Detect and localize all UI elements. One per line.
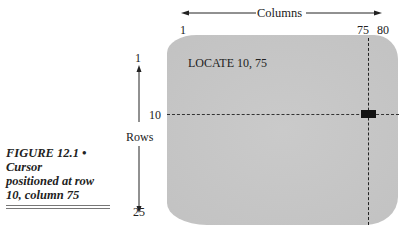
cursor-block — [361, 110, 376, 118]
column-75-guide-line — [368, 38, 369, 225]
row-tick-1: 1 — [135, 52, 141, 64]
caption-title: FIGURE 12.1 • — [6, 146, 110, 160]
column-tick-80: 80 — [377, 24, 389, 36]
figure-caption: FIGURE 12.1 • Cursor positioned at row 1… — [6, 146, 110, 202]
caption-line-4: 10, column 75 — [6, 188, 110, 202]
row-tick-25: 25 — [133, 206, 145, 218]
rows-label: Rows — [126, 131, 153, 143]
screen-command-text: LOCATE 10, 75 — [188, 57, 267, 69]
caption-line-2: Cursor — [6, 160, 110, 174]
caption-rule-top — [6, 205, 110, 206]
row-tick-10: 10 — [149, 109, 161, 121]
caption-line-3: positioned at row — [6, 174, 110, 188]
column-tick-1: 1 — [180, 24, 186, 36]
columns-label: Columns — [257, 7, 302, 19]
caption-rule-bottom — [6, 208, 110, 209]
